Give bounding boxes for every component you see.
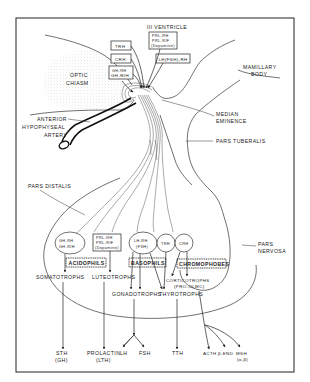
beta-end-label: β-END <box>218 351 233 356</box>
mamillary-label-2: BODY <box>251 71 267 77</box>
lh-hormone-label: LH <box>120 350 127 356</box>
lth-label: (LTH) <box>96 357 111 363</box>
gh-cell-rh: GH-RH <box>59 239 73 243</box>
gh-cell-rih: GH-RIH <box>59 245 75 249</box>
artery-label-2: HYPOPHYSEAL <box>22 124 65 130</box>
tth-label: TTH <box>172 350 183 356</box>
pars-nervosa-label-1: PARS <box>258 241 273 247</box>
gh-cell: GH-RH GH-RIH <box>55 232 85 254</box>
basophils-label: BASOPHILS <box>131 260 165 266</box>
crh-cell: CRH <box>175 234 193 252</box>
crh-label: CRH <box>115 57 126 62</box>
acth-label: ACTH <box>203 351 217 356</box>
gh-label: (GH) <box>55 357 68 363</box>
factor-box-gh: GH-RH GH-RIH <box>109 66 133 79</box>
lh-cell-rh: LH-RH <box>134 239 148 243</box>
pars-distalis-label: PARS DISTALIS <box>28 183 71 189</box>
prolactin-label: PROLACTIN <box>87 350 120 356</box>
prl-box-rif: PRL-RIF <box>96 241 114 245</box>
lh-cell: LH-RH (FSH) <box>129 232 157 254</box>
factor-box-trh: TRH <box>111 41 131 50</box>
mamillary-label-1: MAMILLARY <box>243 64 277 70</box>
chromophobes-group: CHROMOPHOBES <box>177 259 229 268</box>
corticotrophs-label: CORTICOTROPHS <box>166 278 210 283</box>
trh-label: TRH <box>115 44 125 49</box>
thyrotrophs-label: THYROTROPHS <box>159 291 203 297</box>
sth-label: STH <box>56 350 68 356</box>
chromophobes-label: CHROMOPHOBES <box>179 261 229 267</box>
msh-label: MSH <box>236 351 247 356</box>
artery-label-3: ARTERY <box>44 132 67 138</box>
somatotrophs-label: SOMATOTROPHS <box>36 274 85 280</box>
acidophils-group: ACIDOPHILS <box>66 258 106 267</box>
prl-box-dopamine: (Dopamine) <box>95 246 119 250</box>
hypothalamic-pituitary-diagram: OPTIC CHIASM ANTERIOR HYPOPHYSEAL ARTERY… <box>0 0 310 382</box>
diagram-canvas: OPTIC CHIASM ANTERIOR HYPOPHYSEAL ARTERY… <box>0 0 310 382</box>
optic-chiasm-label-1: OPTIC <box>70 72 88 78</box>
prl-box: PRL-RH PRL-RIF (Dopamine) <box>93 234 121 251</box>
acidophils-label: ACIDOPHILS <box>69 260 105 266</box>
dopamine-label: (Dopamine) <box>151 44 175 48</box>
fsh-hormone-label: FSH <box>139 350 151 356</box>
optic-chiasm-label-2: CHIASM <box>66 80 89 86</box>
lh-fsh-rh-label: LH(FSH)-RH <box>159 57 188 62</box>
factor-box-prl: PRL-RH PRL-RIF (Dopamine) <box>149 32 177 49</box>
lh-cell-fsh: (FSH) <box>136 245 148 249</box>
gonadotrophs-label: GONADOTROPHS <box>112 291 162 297</box>
luteotrophs-label: LUTEOTROPHS <box>92 274 135 280</box>
crh-cell-label: CRH <box>179 242 188 246</box>
factor-box-lh: LH(FSH)-RH <box>156 54 190 63</box>
median-eminence-label-2: EMINENCE <box>216 118 247 124</box>
gh-rih-label: GH-RIH <box>111 73 129 78</box>
factor-box-crh: CRH <box>111 54 131 63</box>
msh-sub-label: (α,β) <box>237 357 248 362</box>
pars-nervosa-label-2: NERVOSA <box>258 248 286 254</box>
median-eminence-label-1: MEDIAN <box>216 111 239 117</box>
pro-olmc-label: (PRO-OLMC) <box>174 284 205 289</box>
pars-tuberalis-label: PARS TUBERALIS <box>216 138 266 144</box>
trh-cell: TRH <box>157 234 175 252</box>
trh-cell-label: TRH <box>161 242 170 246</box>
prl-box-rh: PRL-RH <box>96 236 113 240</box>
basophils-group: BASOPHILS <box>129 258 166 267</box>
artery-label-1: ANTERIOR <box>37 116 67 122</box>
ventricle-label: III VENTRICLE <box>147 24 187 30</box>
gh-rh-label: GH-RH <box>112 69 126 73</box>
prl-rif-label: PRL-RIF <box>152 39 170 43</box>
prl-rh-label: PRL-RH <box>152 34 169 38</box>
stalk-right-outline <box>160 115 192 185</box>
